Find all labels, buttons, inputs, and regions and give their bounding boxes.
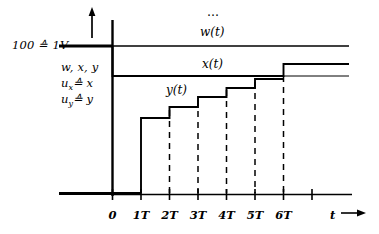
ux-relation: ≙ x [73, 76, 93, 90]
x-curve [113, 46, 350, 76]
t-axis-tick-label: 4T [218, 208, 235, 222]
ordinate-uy-label: uy≙ y [61, 94, 93, 108]
x-curve-label: x(t) [202, 58, 223, 70]
w-curve-label: w(t) [200, 26, 224, 38]
t-axis-tick-label: 2T [161, 208, 178, 222]
t-axis-tick-label: 1T [133, 208, 150, 222]
t-axis-tick-label: 6T [275, 208, 292, 222]
ordinate-scale-note: 100 ≙ 1V [12, 40, 68, 52]
y-curve-label: y(t) [166, 84, 187, 96]
ordinate-arrow-icon [89, 7, 96, 38]
t-axis-tick-label: 5T [247, 208, 264, 222]
t-axis-tick-label: 0 [108, 208, 116, 222]
ordinate-quantities-label: w, x, y [61, 62, 98, 74]
t-axis-symbol: t [330, 208, 335, 222]
timing-diagram-figure [0, 0, 379, 234]
t-axis-arrow-icon [341, 210, 366, 217]
t-axis-tick-label: 3T [190, 208, 207, 222]
ordinate-ux-label: ux≙ x [61, 78, 93, 92]
y-curve [141, 79, 284, 194]
t-axis-label: t [330, 208, 335, 222]
uy-relation: ≙ y [73, 92, 93, 106]
continuation-dots: … [207, 6, 221, 18]
